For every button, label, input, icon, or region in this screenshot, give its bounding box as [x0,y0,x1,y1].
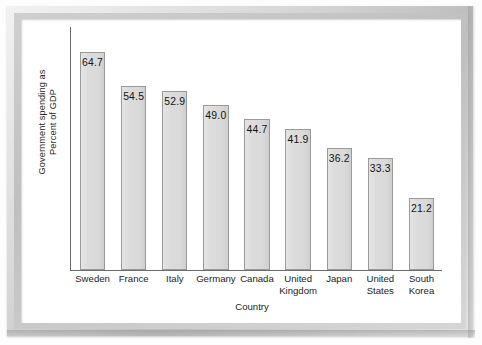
bar-slot: 44.7 [244,27,269,270]
bar[interactable]: 52.9 [162,91,187,270]
category-label-line1: Sweden [72,273,113,285]
category-label-line1: France [113,273,154,285]
bar-slot: 52.9 [162,27,187,270]
category-label: Sweden [72,273,113,285]
bar-slot: 41.9 [285,27,310,270]
bar[interactable]: 49.0 [203,105,228,270]
frame-drop-shadow-bottom [7,330,475,338]
bar[interactable]: 41.9 [285,129,310,270]
x-axis-line [70,270,442,271]
category-label-line1: Germany [195,273,236,285]
bar-slot: 49.0 [203,27,228,270]
y-axis-line [70,27,71,271]
y-axis-title-line2: Percent of GDP [48,42,59,202]
category-label-line1: Japan [319,273,360,285]
x-axis-title: Country [21,301,461,312]
category-label-line2: Kingdom [278,285,319,297]
category-label: SouthKorea [401,273,442,296]
category-label-line1: South [401,273,442,285]
x-axis-title-text: Country [213,301,269,312]
y-axis-title-line1: Government spending as [37,42,48,202]
bar-chart: Government spending as Percent of GDP 64… [21,19,461,323]
category-label: France [113,273,154,285]
category-label-line1: Canada [236,273,277,285]
category-label: UnitedStates [360,273,401,296]
bar-value-label: 41.9 [286,134,309,145]
category-label-line1: Italy [154,273,195,285]
bar-value-label: 64.7 [81,57,104,68]
bar-value-label: 33.3 [369,163,392,174]
category-label: UnitedKingdom [278,273,319,296]
bar[interactable]: 21.2 [409,198,434,270]
category-label-line2: Korea [401,285,442,297]
bar-value-label: 44.7 [245,124,268,135]
category-label-line1: United [360,273,401,285]
bar-value-label: 49.0 [204,110,227,121]
bar-slot: 33.3 [368,27,393,270]
frame-drop-shadow-right [468,6,476,338]
bar-slot: 64.7 [80,27,105,270]
figure-page: Government spending as Percent of GDP 64… [0,0,482,345]
bar[interactable]: 44.7 [244,119,269,270]
category-label: Italy [154,273,195,285]
bar-value-label: 54.5 [122,91,145,102]
bar-value-label: 36.2 [328,153,351,164]
bar-slot: 21.2 [409,27,434,270]
bar-slot: 36.2 [327,27,352,270]
bar-value-label: 52.9 [163,96,186,107]
bar-slot: 54.5 [121,27,146,270]
bars-container: 64.754.552.949.044.741.936.233.321.2 [72,27,442,270]
category-label: Japan [319,273,360,285]
y-axis-title: Government spending as Percent of GDP [37,42,59,202]
category-label-line2: States [360,285,401,297]
bar[interactable]: 54.5 [121,86,146,270]
category-label-line1: United [278,273,319,285]
bar[interactable]: 33.3 [368,158,393,270]
bar[interactable]: 64.7 [80,52,105,270]
category-label: Canada [236,273,277,285]
category-label: Germany [195,273,236,285]
bar[interactable]: 36.2 [327,148,352,270]
bar-value-label: 21.2 [410,203,433,214]
